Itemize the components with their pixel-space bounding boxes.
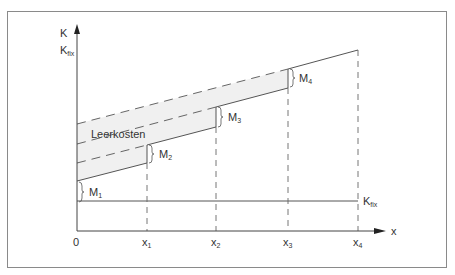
y-axis-arrow-icon	[74, 24, 80, 34]
x-axis-label: x	[391, 225, 397, 237]
step-label-m1: M1	[89, 186, 102, 199]
y-axis-label-k: K	[60, 27, 68, 39]
x-tick-2: x2	[211, 236, 221, 249]
brace-m4-icon	[290, 69, 295, 87]
brace-m2-icon	[149, 145, 154, 163]
x-tick-1: x1	[142, 236, 152, 249]
x-tick-0: 0	[73, 236, 79, 248]
leerkosten-band	[77, 69, 288, 181]
x-axis-arrow-icon	[374, 228, 386, 234]
x-tick-4: x4	[353, 236, 363, 249]
step-label-m3: M3	[228, 111, 241, 124]
brace-m1-icon	[79, 182, 84, 202]
x-tick-3: x3	[283, 236, 293, 249]
leerkosten-label: Leerkosten	[91, 128, 145, 140]
learning-cost-diagram: K Kfix 0 x1 x2 x3 x4 x Kfix Leerkosten M…	[0, 0, 455, 275]
vertical-guides	[147, 50, 358, 231]
fixed-cost-label: Kfix	[363, 195, 378, 208]
y-axis-label-kfix: Kfix	[60, 44, 75, 57]
brace-m3-icon	[218, 107, 223, 127]
step-label-m2: M2	[159, 148, 172, 161]
step-label-m4: M4	[299, 72, 312, 85]
